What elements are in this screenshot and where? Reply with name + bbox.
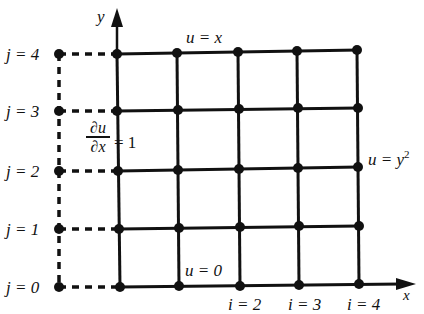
row-label-j1: j = 1 — [6, 221, 39, 238]
bc-right: u = y2 — [368, 146, 410, 168]
bc-left-derivative: ∂u ∂x — [86, 120, 110, 154]
row-label-j0: j = 0 — [6, 279, 39, 296]
bc-top: u = x — [186, 29, 222, 46]
col-label-i3: i = 3 — [288, 296, 321, 313]
row-label-j3: j = 3 — [6, 103, 39, 120]
x-axis-label: x — [403, 287, 410, 304]
y-axis-arrow-icon — [111, 8, 123, 27]
col-label-i4: i = 4 — [347, 296, 380, 313]
bc-left-rhs: = 1 — [114, 134, 136, 151]
bc-bottom: u = 0 — [185, 262, 222, 279]
y-axis-label: y — [97, 8, 105, 25]
row-label-j4: j = 4 — [6, 46, 39, 63]
row-label-j2: j = 2 — [6, 163, 39, 180]
ghost-nodes — [59, 54, 119, 287]
col-label-i2: i = 2 — [228, 296, 261, 313]
